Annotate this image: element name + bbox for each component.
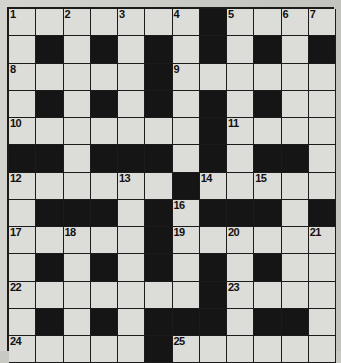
cell-r11-c11[interactable] <box>282 282 309 309</box>
cell-r9-c2[interactable] <box>36 227 63 254</box>
cell-r1-c9[interactable]: 5 <box>227 9 254 36</box>
cell-r5-c12[interactable] <box>309 118 336 145</box>
cell-r13-c4[interactable] <box>91 336 118 363</box>
cell-r9-c5[interactable] <box>118 227 145 254</box>
cell-r5-c10[interactable] <box>254 118 281 145</box>
cell-r2-c9[interactable] <box>227 36 254 63</box>
cell-r12-c1[interactable] <box>9 309 36 336</box>
cell-r9-c10[interactable] <box>254 227 281 254</box>
cell-r4-c5[interactable] <box>118 91 145 118</box>
cell-r1-c10[interactable] <box>254 9 281 36</box>
cell-r2-c11[interactable] <box>282 36 309 63</box>
cell-r13-c5[interactable] <box>118 336 145 363</box>
cell-r12-c3[interactable] <box>64 309 91 336</box>
cell-r11-c7[interactable] <box>173 282 200 309</box>
cell-r12-c5[interactable] <box>118 309 145 336</box>
cell-r1-c2[interactable] <box>36 9 63 36</box>
cell-r7-c10[interactable]: 15 <box>254 173 281 200</box>
cell-r3-c2[interactable] <box>36 64 63 91</box>
cell-r1-c12[interactable]: 7 <box>309 9 336 36</box>
cell-r11-c10[interactable] <box>254 282 281 309</box>
cell-r5-c1[interactable]: 10 <box>9 118 36 145</box>
cell-r13-c8[interactable] <box>200 336 227 363</box>
cell-r6-c12[interactable] <box>309 145 336 172</box>
cell-r11-c5[interactable] <box>118 282 145 309</box>
cell-r4-c3[interactable] <box>64 91 91 118</box>
cell-r8-c11[interactable] <box>282 200 309 227</box>
cell-r11-c1[interactable]: 22 <box>9 282 36 309</box>
cell-r7-c12[interactable] <box>309 173 336 200</box>
cell-r9-c8[interactable] <box>200 227 227 254</box>
cell-r13-c1[interactable]: 24 <box>9 336 36 363</box>
cell-r4-c9[interactable] <box>227 91 254 118</box>
cell-r6-c3[interactable] <box>64 145 91 172</box>
cell-r8-c7[interactable]: 16 <box>173 200 200 227</box>
cell-r7-c2[interactable] <box>36 173 63 200</box>
cell-r5-c2[interactable] <box>36 118 63 145</box>
cell-r13-c10[interactable] <box>254 336 281 363</box>
cell-r1-c11[interactable]: 6 <box>282 9 309 36</box>
cell-r3-c5[interactable] <box>118 64 145 91</box>
cell-r13-c12[interactable] <box>309 336 336 363</box>
cell-r13-c3[interactable] <box>64 336 91 363</box>
cell-r4-c7[interactable] <box>173 91 200 118</box>
cell-r5-c9[interactable]: 11 <box>227 118 254 145</box>
cell-r6-c9[interactable] <box>227 145 254 172</box>
cell-r13-c9[interactable] <box>227 336 254 363</box>
cell-r13-c11[interactable] <box>282 336 309 363</box>
cell-r5-c11[interactable] <box>282 118 309 145</box>
cell-r11-c6[interactable] <box>145 282 172 309</box>
cell-r7-c1[interactable]: 12 <box>9 173 36 200</box>
cell-r3-c10[interactable] <box>254 64 281 91</box>
cell-r10-c9[interactable] <box>227 254 254 281</box>
cell-r4-c11[interactable] <box>282 91 309 118</box>
cell-r9-c1[interactable]: 17 <box>9 227 36 254</box>
cell-r5-c3[interactable] <box>64 118 91 145</box>
cell-r7-c5[interactable]: 13 <box>118 173 145 200</box>
cell-r11-c12[interactable] <box>309 282 336 309</box>
cell-r1-c5[interactable]: 3 <box>118 9 145 36</box>
cell-r9-c11[interactable] <box>282 227 309 254</box>
cell-r2-c7[interactable] <box>173 36 200 63</box>
cell-r1-c4[interactable] <box>91 9 118 36</box>
cell-r1-c1[interactable]: 1 <box>9 9 36 36</box>
cell-r2-c5[interactable] <box>118 36 145 63</box>
cell-r4-c12[interactable] <box>309 91 336 118</box>
cell-r7-c3[interactable] <box>64 173 91 200</box>
cell-r8-c1[interactable] <box>9 200 36 227</box>
cell-r10-c7[interactable] <box>173 254 200 281</box>
cell-r3-c4[interactable] <box>91 64 118 91</box>
cell-r10-c11[interactable] <box>282 254 309 281</box>
cell-r5-c5[interactable] <box>118 118 145 145</box>
cell-r7-c8[interactable]: 14 <box>200 173 227 200</box>
cell-r1-c3[interactable]: 2 <box>64 9 91 36</box>
cell-r10-c1[interactable] <box>9 254 36 281</box>
cell-r3-c1[interactable]: 8 <box>9 64 36 91</box>
cell-r13-c7[interactable]: 25 <box>173 336 200 363</box>
cell-r3-c8[interactable] <box>200 64 227 91</box>
cell-r5-c4[interactable] <box>91 118 118 145</box>
cell-r6-c7[interactable] <box>173 145 200 172</box>
cell-r12-c9[interactable] <box>227 309 254 336</box>
cell-r2-c3[interactable] <box>64 36 91 63</box>
crossword-grid[interactable]: 1234567891011121314151617181920212223242… <box>7 7 334 351</box>
cell-r3-c7[interactable]: 9 <box>173 64 200 91</box>
cell-r5-c7[interactable] <box>173 118 200 145</box>
cell-r10-c5[interactable] <box>118 254 145 281</box>
cell-r10-c3[interactable] <box>64 254 91 281</box>
cell-r2-c1[interactable] <box>9 36 36 63</box>
cell-r9-c4[interactable] <box>91 227 118 254</box>
cell-r9-c7[interactable]: 19 <box>173 227 200 254</box>
cell-r7-c6[interactable] <box>145 173 172 200</box>
cell-r8-c5[interactable] <box>118 200 145 227</box>
cell-r10-c12[interactable] <box>309 254 336 281</box>
cell-r1-c7[interactable]: 4 <box>173 9 200 36</box>
cell-r3-c9[interactable] <box>227 64 254 91</box>
cell-r3-c11[interactable] <box>282 64 309 91</box>
cell-r4-c1[interactable] <box>9 91 36 118</box>
cell-r5-c6[interactable] <box>145 118 172 145</box>
cell-r7-c4[interactable] <box>91 173 118 200</box>
cell-r7-c9[interactable] <box>227 173 254 200</box>
cell-r3-c12[interactable] <box>309 64 336 91</box>
cell-r9-c9[interactable]: 20 <box>227 227 254 254</box>
